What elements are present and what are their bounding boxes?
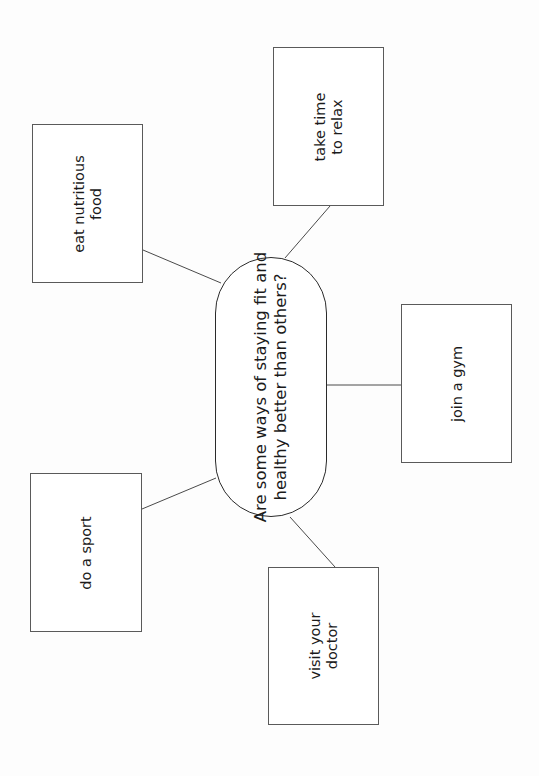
node-label: eat nutritious food <box>71 155 105 253</box>
node-do-a-sport: do a sport <box>30 473 142 632</box>
central-question: Are some ways of staying fit and healthy… <box>215 257 327 517</box>
node-label: do a sport <box>78 516 95 589</box>
node-take-time-to-relax: take time to relax <box>273 47 384 206</box>
node-label: take time to relax <box>312 92 346 161</box>
node-label: join a gym <box>448 345 465 421</box>
connector-sport <box>142 478 216 509</box>
central-question-label: Are some ways of staying fit and healthy… <box>251 252 291 522</box>
node-visit-your-doctor: visit your doctor <box>268 567 379 725</box>
node-join-a-gym: join a gym <box>401 304 512 463</box>
connector-relax <box>285 206 330 258</box>
node-label: visit your doctor <box>307 612 341 679</box>
connector-doctor <box>290 517 335 567</box>
connector-eat <box>143 250 221 283</box>
node-eat-nutritious-food: eat nutritious food <box>32 124 143 283</box>
